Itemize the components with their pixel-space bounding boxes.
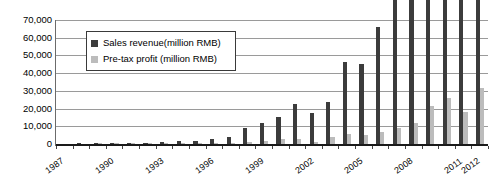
x-axis-tick: [471, 146, 472, 149]
x-axis-tick: [322, 146, 323, 149]
bar-category: [388, 20, 405, 144]
bar-category: [455, 20, 472, 144]
bar-pre-tax-profit: [347, 134, 351, 144]
bar-category: [422, 20, 439, 144]
chart-legend: Sales revenue(million RMB) Pre-tax profi…: [86, 31, 236, 71]
bar-category: [405, 20, 422, 144]
bar-pre-tax-profit: [463, 112, 467, 144]
bar-category: [255, 20, 272, 144]
x-axis-tick: [189, 146, 190, 149]
bar-pre-tax-profit: [380, 132, 384, 144]
bar-sales-revenue: [359, 64, 363, 144]
x-axis-tick: [388, 146, 389, 149]
x-axis-tick-label: 2008: [393, 156, 415, 176]
bar-pre-tax-profit: [447, 98, 451, 144]
bar-category: [355, 20, 372, 144]
x-axis-tick: [305, 146, 306, 149]
x-axis-tick: [272, 146, 273, 149]
x-axis-tick-label: 2005: [343, 156, 365, 176]
x-axis: 1987199019931996199920022005200820112012: [56, 146, 488, 181]
y-axis-tick-label: 20,000: [0, 104, 52, 114]
bar-category: [272, 20, 289, 144]
x-axis-tick: [355, 146, 356, 149]
x-axis-tick: [89, 146, 90, 149]
x-axis-tick-label: 1999: [243, 156, 265, 176]
x-axis-tick: [372, 146, 373, 149]
legend-label-sales-revenue: Sales revenue(million RMB): [103, 38, 221, 48]
bar-category: [322, 20, 339, 144]
x-axis-tick: [73, 146, 74, 149]
bar-pre-tax-profit: [330, 137, 334, 144]
y-axis-tick-label: 30,000: [0, 86, 52, 96]
bar-chart: 010,00020,00030,00040,00050,00060,00070,…: [0, 0, 499, 181]
legend-swatch-icon: [91, 56, 98, 63]
x-axis-tick-label: 1996: [193, 156, 215, 176]
bar-category: [289, 20, 306, 144]
bar-pre-tax-profit: [364, 135, 368, 144]
bar-category: [338, 20, 355, 144]
x-axis-tick: [255, 146, 256, 149]
x-axis-tick: [156, 146, 157, 149]
x-axis-tick: [222, 146, 223, 149]
y-axis-tick-label: 50,000: [0, 51, 52, 61]
x-axis-tick: [56, 146, 57, 149]
legend-swatch-icon: [91, 40, 98, 47]
y-axis-tick-label: 0: [0, 139, 52, 149]
bar-sales-revenue: [293, 104, 297, 144]
x-axis-tick-label: 1993: [143, 156, 165, 176]
y-axis-tick-label: 40,000: [0, 68, 52, 78]
x-axis-tick: [488, 146, 489, 149]
bar-category: [372, 20, 389, 144]
x-axis-tick: [422, 146, 423, 149]
bar-sales-revenue: [376, 27, 380, 144]
bar-category: [438, 20, 455, 144]
x-axis-tick: [239, 146, 240, 149]
bar-sales-revenue: [343, 62, 347, 144]
bar-pre-tax-profit: [414, 123, 418, 144]
x-axis-tick: [206, 146, 207, 149]
y-axis: 010,00020,00030,00040,00050,00060,00070,…: [0, 0, 52, 181]
bar-category: [471, 20, 488, 144]
x-axis-tick: [122, 146, 123, 149]
x-axis-tick: [338, 146, 339, 149]
legend-item-pre-tax-profit: Pre-tax profit (million RMB): [91, 51, 231, 67]
y-axis-tick-label: 70,000: [0, 15, 52, 25]
bar-pre-tax-profit: [480, 88, 484, 144]
x-axis-tick: [139, 146, 140, 149]
y-axis-tick-label: 10,000: [0, 122, 52, 132]
x-axis-tick: [438, 146, 439, 149]
x-axis-tick-label: 2012: [459, 156, 481, 176]
bar-pre-tax-profit: [430, 106, 434, 144]
bar-sales-revenue: [393, 0, 397, 144]
bar-sales-revenue: [310, 113, 314, 144]
legend-label-pre-tax-profit: Pre-tax profit (million RMB): [103, 54, 217, 64]
bar-category: [56, 20, 73, 144]
x-axis-tick: [455, 146, 456, 149]
x-axis-tick: [106, 146, 107, 149]
x-axis-tick-label: 1990: [93, 156, 115, 176]
legend-item-sales-revenue: Sales revenue(million RMB): [91, 35, 231, 51]
x-axis-tick: [289, 146, 290, 149]
y-axis-tick-label: 60,000: [0, 33, 52, 43]
x-axis-tick-label: 2002: [293, 156, 315, 176]
bar-category: [305, 20, 322, 144]
x-axis-tick: [172, 146, 173, 149]
bar-pre-tax-profit: [397, 128, 401, 144]
x-axis-tick: [405, 146, 406, 149]
bar-category: [239, 20, 256, 144]
